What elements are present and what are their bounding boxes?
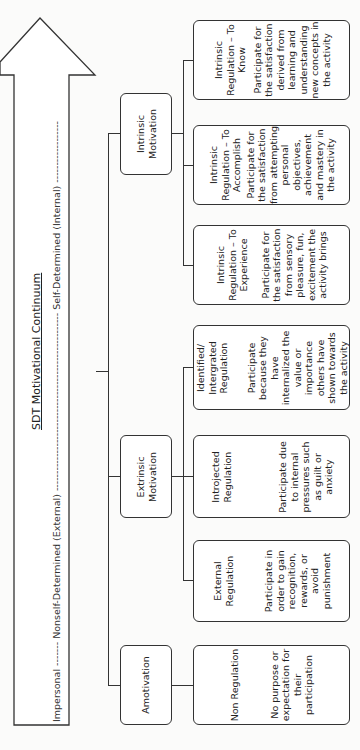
branch-to-introjected [183, 476, 193, 477]
branch-to-experience [183, 265, 193, 266]
arrow-label-nonself: Nonself-Determined (External) [51, 494, 62, 639]
regulation-intrinsic-accomplish: Intrinsic Regulation – To Accomplish Par… [193, 125, 350, 205]
intrinsic-to-branch [172, 133, 183, 134]
regulation-title: External Regulation [212, 542, 235, 620]
regulation-description: Participate for the satisfaction from se… [259, 226, 328, 304]
continuum-arrow-icon [0, 0, 100, 750]
regulation-title: Introjected Regulation [209, 437, 232, 517]
arrow-dashes: ----------------------------------------… [51, 310, 62, 491]
amotivation-to-nonreg [172, 685, 193, 686]
extrinsic-to-branch [172, 476, 183, 477]
trunk-to-intrinsic [108, 133, 120, 134]
arrow-label: Impersonal ------- Nonself-Determined (E… [51, 121, 62, 722]
regulation-title: Intrinsic Regulation – To Accomplish [207, 126, 242, 204]
trunk-line [108, 133, 109, 686]
regulation-description: Participate due to internal pressures su… [276, 437, 334, 517]
trunk-to-extrinsic [108, 476, 120, 477]
regulation-introjected: Introjected Regulation Participate due t… [193, 435, 350, 518]
regulation-non-regulation: Non Regulation No purpose or expectation… [193, 645, 350, 725]
category-label: Intrinsic Motivation [135, 109, 158, 159]
regulation-intrinsic-experience: Intrinsic Regulation – To Experience Par… [193, 225, 350, 305]
branch-to-identified [183, 367, 193, 368]
category-label: Amotivation [140, 656, 151, 714]
regulation-intrinsic-know: Intrinsic Regulation – To Know Participa… [193, 20, 350, 100]
regulation-description: Participate for the satisfaction from at… [244, 126, 336, 204]
branch-to-external [183, 580, 193, 581]
trunk-to-amotivation [108, 685, 120, 686]
regulation-external: External Regulation Participate in order… [193, 540, 350, 622]
category-label: Extrinsic Motivation [135, 452, 158, 502]
arrow-label-impersonal: Impersonal [51, 669, 62, 722]
branch-to-know [183, 60, 193, 61]
arrow-dashes: ------- [51, 639, 62, 666]
regulation-title: Intrinsic Regulation – To Know [212, 21, 247, 99]
arrow-label-self: Self-Determined (Internal) [51, 186, 62, 310]
regulation-title: Intrinsic Regulation – To Experience [215, 226, 250, 304]
category-amotivation: Amotivation [120, 645, 172, 725]
intrinsic-branch-line [183, 60, 184, 265]
regulation-description: Participate for the satisfaction derived… [251, 21, 332, 99]
arrow-dashes: ------------------ [51, 121, 62, 183]
arrow-to-trunk-connector [96, 371, 108, 372]
regulation-title: Identified/ Intergrated Regulation [195, 328, 230, 408]
regulation-description: No purpose or expectation for their part… [268, 646, 314, 724]
regulation-identified-integrated: Identified/ Intergrated Regulation Parti… [193, 325, 350, 410]
regulation-title: Non Regulation [229, 646, 241, 724]
diagram-title: SDT Motivational Continuum [30, 273, 43, 430]
category-extrinsic-motivation: Extrinsic Motivation [120, 435, 172, 518]
branch-to-accomplish [183, 165, 193, 166]
regulation-description: Participate in order to gain recognition… [263, 542, 332, 620]
regulation-description: Participate because they have internaliz… [245, 328, 349, 408]
extrinsic-branch-line [183, 367, 184, 581]
category-intrinsic-motivation: Intrinsic Motivation [120, 93, 172, 175]
